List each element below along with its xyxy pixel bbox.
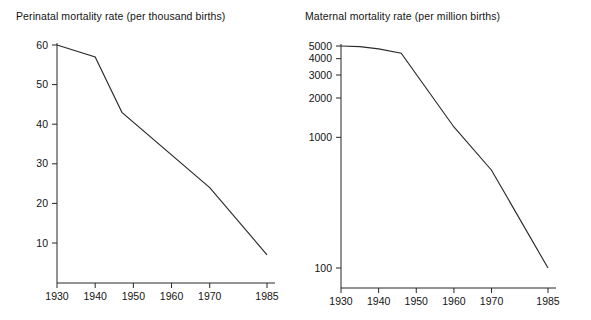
y-tick-label: 50 [36,78,48,90]
y-tick-label: 60 [36,39,48,51]
maternal-plot-svg: 1001000200030004000500019301940195019601… [296,0,591,320]
y-tick-label: 10 [36,237,48,249]
y-tick-label: 30 [36,157,48,169]
x-tick-label: 1930 [329,295,353,307]
y-tick-label: 4000 [309,52,333,64]
x-tick-label: 1930 [45,290,69,302]
x-tick-label: 1950 [405,295,429,307]
panel-maternal: Maternal mortality rate (per million bir… [296,0,591,320]
data-series-line [57,45,267,255]
data-series-line [341,46,548,268]
plot-area-perinatal: 102030405060193019401950196019701985 [0,0,295,320]
panel-perinatal: Perinatal mortality rate (per thousand b… [0,0,295,320]
x-tick-label: 1950 [122,290,146,302]
x-tick-label: 1940 [84,290,108,302]
two-panel-line-chart-figure: Perinatal mortality rate (per thousand b… [0,0,591,320]
y-tick-label: 1000 [309,131,333,143]
y-tick-label: 100 [314,262,332,274]
x-tick-label: 1970 [480,295,504,307]
y-tick-label: 3000 [309,69,333,81]
plot-area-maternal: 1001000200030004000500019301940195019601… [296,0,591,320]
y-tick-label: 5000 [309,40,333,52]
x-tick-label: 1985 [536,295,560,307]
y-tick-label: 20 [36,197,48,209]
x-tick-label: 1960 [442,295,466,307]
x-tick-label: 1940 [367,295,391,307]
x-tick-label: 1985 [255,290,279,302]
y-tick-label: 40 [36,118,48,130]
perinatal-plot-svg: 102030405060193019401950196019701985 [0,0,295,320]
x-tick-label: 1970 [198,290,222,302]
x-tick-label: 1960 [160,290,184,302]
y-tick-label: 2000 [309,92,333,104]
